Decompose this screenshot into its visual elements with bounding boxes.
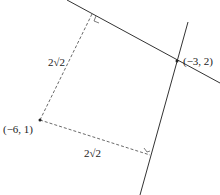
diagram-canvas: (−3, 2) (−6, 1) 2√2 2√2 xyxy=(0,0,220,195)
point-intersection xyxy=(176,60,179,63)
external-point-label: (−6, 1) xyxy=(3,124,33,135)
diagram-graphics xyxy=(0,0,220,195)
point-external xyxy=(39,119,42,122)
line-1 xyxy=(67,0,220,83)
intersection-label: (−3, 2) xyxy=(183,56,213,67)
right-angle-marker-2 xyxy=(144,148,150,152)
line-2 xyxy=(140,22,188,195)
distance-label-1: 2√2 xyxy=(48,57,65,68)
distance-label-2: 2√2 xyxy=(84,148,101,159)
